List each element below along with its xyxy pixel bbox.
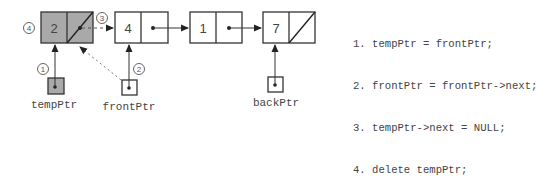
node-value: 1 bbox=[199, 21, 206, 36]
tempptr-label: tempPtr bbox=[31, 99, 77, 111]
step-marker-4: 4 bbox=[24, 23, 35, 34]
svg-text:2: 2 bbox=[137, 65, 142, 74]
step-marker-1: 1 bbox=[38, 64, 49, 75]
svg-text:4: 4 bbox=[27, 24, 32, 33]
step-marker-3: 3 bbox=[97, 13, 108, 24]
node-value: 2 bbox=[50, 21, 57, 36]
tempptr-box: tempPtr bbox=[31, 45, 77, 111]
old-frontptr-arrow bbox=[80, 47, 121, 80]
svg-text:1: 1 bbox=[41, 65, 46, 74]
code-steps: 1. tempPtr = frontPtr; 2. frontPtr = fro… bbox=[353, 9, 537, 191]
node-value: 4 bbox=[124, 21, 131, 36]
node-value: 7 bbox=[272, 21, 279, 36]
code-step-4: 4. delete tempPtr; bbox=[353, 163, 537, 177]
code-step-3: 3. tempPtr->next = NULL; bbox=[353, 121, 537, 135]
frontptr-box: frontPtr bbox=[80, 45, 155, 113]
backptr-box: backPtr bbox=[253, 45, 299, 109]
code-step-2: 2. frontPtr = frontPtr->next; bbox=[353, 79, 537, 93]
step-marker-2: 2 bbox=[134, 64, 145, 75]
svg-text:3: 3 bbox=[100, 14, 105, 23]
backptr-label: backPtr bbox=[253, 97, 299, 109]
frontptr-label: frontPtr bbox=[103, 101, 156, 113]
node-7: 7 bbox=[263, 12, 315, 43]
node-2: 2 bbox=[41, 12, 93, 43]
code-step-1: 1. tempPtr = frontPtr; bbox=[353, 37, 537, 51]
